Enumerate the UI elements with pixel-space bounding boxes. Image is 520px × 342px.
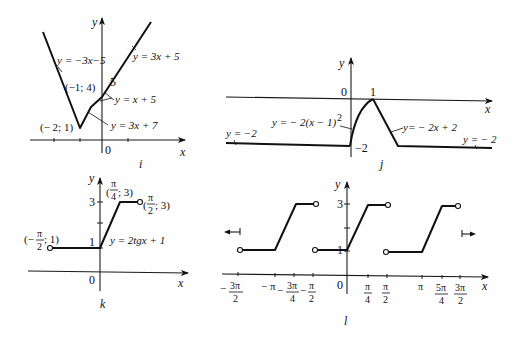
panel-label: j — [378, 157, 384, 171]
equation-right: y = 3x + 5 — [132, 50, 180, 62]
svg-text:4: 4 — [290, 293, 295, 304]
point-right-label: ( π 2 ; 3) — [143, 192, 170, 216]
svg-text:2: 2 — [458, 295, 463, 306]
math-graphs: y x 0 5 y = −3x−5 y = 3x + 5 y = x + 5 y… — [0, 0, 520, 342]
svg-text:2: 2 — [148, 205, 153, 216]
svg-text:− π: − π — [261, 280, 276, 292]
svg-text:5π: 5π — [436, 282, 446, 293]
svg-text:2: 2 — [233, 293, 238, 304]
panel-label: i — [139, 157, 142, 171]
svg-text:(: ( — [106, 186, 110, 199]
origin-label: 0 — [89, 273, 95, 287]
tick-3: 3 — [89, 195, 95, 209]
svg-text:π: π — [418, 281, 423, 292]
panel-j: y x 0 1 −2 y = −2 y = − 2(x − 1) 2 y= − … — [225, 56, 497, 171]
x-axis-label: x — [177, 276, 184, 290]
tick-5: 5 — [110, 75, 116, 89]
point-mid-label: ( π 4 ; 3) — [106, 178, 133, 202]
svg-text:π: π — [383, 281, 388, 292]
panel-l: y x 0 1 3 − 3π 2 − π − 3π 4 − π 2 π 4 π … — [220, 177, 488, 328]
point-b-label: (− 2; 1) — [40, 121, 73, 134]
equation-exponent: 2 — [337, 112, 342, 123]
x-axis-arrow-icon — [222, 274, 488, 277]
svg-text:π: π — [37, 228, 42, 239]
left-continuation-arrow-icon — [224, 228, 240, 235]
origin-label: 0 — [105, 143, 111, 157]
svg-text:4: 4 — [111, 191, 116, 202]
svg-text:3π: 3π — [230, 280, 240, 291]
tick-1: 1 — [337, 243, 343, 257]
tick-3: 3 — [337, 197, 343, 211]
equation-parabola: y = − 2(x − 1) — [271, 116, 336, 129]
tick-1: 1 — [89, 235, 95, 249]
svg-text:−: − — [277, 284, 283, 296]
panel-i: y x 0 5 y = −3x−5 y = 3x + 5 y = x + 5 y… — [30, 15, 186, 171]
equation-mid: y = x + 5 — [114, 93, 157, 105]
svg-text:(: ( — [143, 199, 147, 212]
origin-label: 0 — [341, 85, 347, 99]
x-axis-label: x — [481, 279, 488, 293]
tick-minus-2: −2 — [355, 141, 368, 155]
equation-right: y = − 2 — [462, 133, 497, 145]
svg-text:2: 2 — [309, 293, 314, 304]
origin-label: 0 — [337, 278, 343, 292]
svg-text:(−: (− — [24, 233, 34, 246]
equation: y = 2tgx + 1 — [109, 234, 165, 246]
svg-text:2: 2 — [37, 241, 42, 252]
svg-text:π: π — [148, 192, 153, 203]
equation-left: y = −2 — [225, 127, 257, 139]
x-axis-arrow-icon — [226, 97, 492, 101]
point-a-label: (−1; 4) — [65, 81, 96, 94]
tick-1: 1 — [370, 85, 376, 99]
svg-text:; 1): ; 1) — [44, 233, 59, 246]
y-axis-label: y — [88, 171, 95, 185]
svg-text:3π: 3π — [455, 282, 465, 293]
figure: y x 0 5 y = −3x−5 y = 3x + 5 y = x + 5 y… — [0, 0, 520, 342]
svg-text:; 3): ; 3) — [155, 199, 170, 212]
svg-text:−: − — [300, 284, 306, 296]
y-axis-label: y — [338, 56, 345, 70]
svg-text:−: − — [220, 282, 226, 294]
equation-line: y= − 2x + 2 — [402, 121, 458, 133]
x-tick-labels: − 3π 2 − π − 3π 4 − π 2 π 4 π 2 π 5π 4 3… — [220, 280, 467, 306]
equation-low: y = 3x + 7 — [110, 119, 158, 131]
svg-text:3π: 3π — [287, 280, 297, 291]
x-axis-label: x — [484, 102, 491, 116]
svg-text:π: π — [309, 280, 314, 291]
y-axis-label: y — [334, 177, 341, 191]
equation-left: y = −3x−5 — [56, 54, 106, 66]
x-axis-label: x — [179, 145, 186, 159]
svg-text:π: π — [365, 281, 370, 292]
right-continuation-arrow-icon — [462, 230, 476, 237]
panel-label: l — [344, 314, 348, 328]
panel-label: k — [100, 297, 106, 311]
svg-text:4: 4 — [365, 294, 370, 305]
panel-k: y x 0 1 3 (− π 2 ; 1) ( π 4 ; 3) ( π 2 ;… — [24, 171, 188, 311]
svg-text:π: π — [111, 178, 116, 189]
y-axis-label: y — [91, 15, 98, 29]
svg-text:; 3): ; 3) — [118, 186, 133, 199]
svg-text:4: 4 — [439, 295, 444, 306]
x-axis-arrow-icon — [28, 271, 188, 273]
svg-text:2: 2 — [383, 294, 388, 305]
